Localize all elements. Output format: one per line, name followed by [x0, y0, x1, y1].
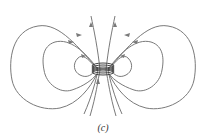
field-line-outer-right: [109, 26, 195, 109]
arrow-icon: [96, 78, 100, 84]
figure-caption: (c): [0, 122, 206, 133]
field-line-outer-left: [11, 26, 97, 109]
field-line-mid-right: [109, 41, 163, 91]
field-line-inner-right: [112, 56, 132, 76]
arrow-icon: [76, 33, 82, 37]
field-lines-svg: [0, 0, 206, 139]
arrow-icon: [124, 33, 130, 37]
field-line-inner-left: [74, 56, 94, 76]
magnetic-field-diagram: (c): [0, 0, 206, 139]
field-line-mid-left: [43, 41, 97, 91]
